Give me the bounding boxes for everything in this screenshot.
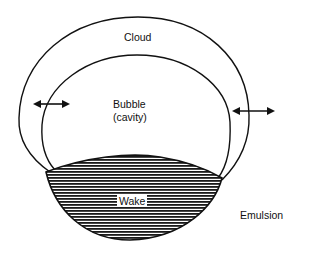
bubble-label: Bubble — [113, 98, 146, 110]
cloud-label: Cloud — [124, 31, 151, 43]
emulsion-label: Emulsion — [240, 209, 283, 221]
left-exchange-arrow — [33, 100, 70, 108]
bubble-cavity-label: (cavity) — [113, 111, 147, 123]
right-exchange-arrow — [232, 107, 275, 115]
wake-label: Wake — [117, 195, 147, 207]
